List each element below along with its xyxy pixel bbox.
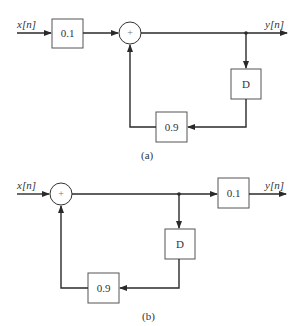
a-delay-label: D (231, 79, 261, 90)
b-delay-label: D (165, 239, 195, 250)
b-delay-to-feedback-arrow (120, 259, 179, 288)
b-input-label: x[n] (17, 180, 36, 191)
block-diagram-figure: x[n] 0.1 + y[n] D 0.9 (a) x[n] + 0.1 y[n… (0, 0, 296, 326)
a-output-label: y[n] (265, 19, 284, 30)
b-caption: (b) (142, 311, 155, 322)
b-output-label: y[n] (265, 180, 284, 191)
a-input-label: x[n] (17, 19, 36, 30)
a-caption: (a) (141, 150, 153, 161)
a-gain-value: 0.1 (52, 28, 83, 39)
b-feedback-to-sum-arrow (61, 206, 88, 288)
b-gain-value: 0.1 (218, 188, 249, 199)
a-feedback-value: 0.9 (156, 122, 187, 133)
a-feedback-to-sum-arrow (130, 45, 156, 127)
diagram-wires (0, 0, 296, 326)
a-delay-to-feedback-arrow (188, 99, 246, 127)
b-feedback-value: 0.9 (88, 283, 119, 294)
b-plus-icon: + (55, 189, 67, 199)
a-plus-icon: + (124, 28, 136, 38)
